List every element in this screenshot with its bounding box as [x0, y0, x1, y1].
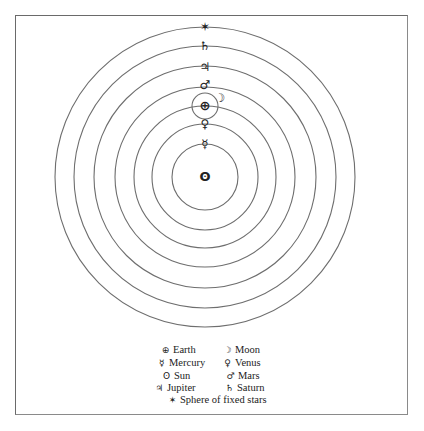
mercury-icon: ☿ [156, 357, 167, 369]
jupiter-icon: ♃ [154, 382, 165, 394]
sun-icon: ʘ [199, 169, 210, 184]
mercury-icon: ☿ [201, 137, 208, 151]
legend-label: Moon [235, 344, 260, 355]
earth-icon: ⊕ [200, 98, 211, 113]
legend-label: Mars [238, 370, 260, 381]
legend-label: Earth [173, 344, 196, 355]
legend-item-earth: ⊕Earth [160, 344, 196, 356]
legend-item-fixed-stars: ✶Sphere of fixed stars [167, 394, 267, 406]
heliocentric-diagram: ʘ☿♀⊕☽♂♃♄✶ [0, 0, 424, 431]
legend-item-mars: ♂Mars [225, 370, 260, 382]
moon-icon: ☽ [215, 91, 226, 105]
legend-item-venus: ♀Venus [222, 357, 261, 369]
legend-item-jupiter: ♃Jupiter [154, 382, 196, 394]
venus-icon: ♀ [201, 117, 210, 131]
mars-icon: ♂ [225, 370, 236, 382]
sphere-of-fixed-stars-icon: ✶ [200, 20, 210, 34]
legend-label: Jupiter [167, 382, 196, 393]
celestial-bodies: ʘ☿♀⊕☽♂♃♄✶ [199, 20, 225, 184]
legend-item-moon: ☽Moon [222, 344, 260, 356]
legend-label: Venus [235, 357, 261, 368]
legend-label: Mercury [169, 357, 205, 368]
venus-icon: ♀ [222, 357, 233, 369]
legend-label: Sun [174, 370, 190, 381]
saturn-icon: ♄ [224, 382, 235, 394]
mars-icon: ♂ [200, 78, 211, 92]
earth-icon: ⊕ [160, 344, 171, 356]
legend-label: Sphere of fixed stars [180, 394, 267, 405]
sun-icon: ʘ [161, 370, 172, 382]
legend-item-saturn: ♄Saturn [224, 382, 264, 394]
legend-label: Saturn [237, 382, 264, 393]
moon-icon: ☽ [222, 344, 233, 356]
saturn-icon: ♄ [200, 39, 211, 53]
jupiter-icon: ♃ [200, 60, 211, 74]
star-icon: ✶ [167, 394, 178, 406]
legend-item-sun: ʘSun [161, 370, 190, 382]
legend-item-mercury: ☿Mercury [156, 357, 205, 369]
